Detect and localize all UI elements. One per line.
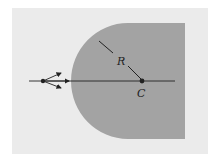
center-point [140,79,145,84]
diagram-canvas: R C [0,0,215,160]
radius-label: R [116,55,125,68]
object-point [41,79,45,83]
ray-up [43,73,61,81]
ray-down [43,81,61,88]
center-label: C [137,87,146,100]
